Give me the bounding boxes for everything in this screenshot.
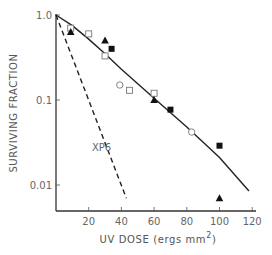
x-tick-label: 100 <box>210 216 229 227</box>
filled-square-point <box>109 46 115 52</box>
filled-square-point <box>167 107 173 113</box>
open-square-point <box>102 53 108 59</box>
x-axis-title-main: UV DOSE (ergs mm <box>100 234 207 245</box>
x-tick-label: 120 <box>243 216 262 227</box>
y-tick-label: 0.1 <box>36 95 52 106</box>
open-circle-point <box>189 129 195 135</box>
survival-chart: 20406080100120 1.00.10.01 XP6 SURVIVING … <box>0 0 272 255</box>
filled-triangle-point <box>150 96 158 103</box>
x-tick-label: 60 <box>148 216 161 227</box>
open-square-point <box>86 31 92 37</box>
xp6-dashed-curve <box>56 15 126 198</box>
y-tick-label: 0.01 <box>30 180 52 191</box>
xp6-curve-label: XP6 <box>92 142 111 153</box>
open-square-point <box>151 90 157 96</box>
x-axis-title-close: ) <box>212 234 217 245</box>
x-tick-label: 40 <box>115 216 128 227</box>
curves <box>56 15 249 198</box>
filled-triangle-point <box>216 194 224 201</box>
open-circle-point <box>117 82 123 88</box>
data-points <box>67 25 223 201</box>
y-tick-label: 1.0 <box>36 10 52 21</box>
x-tick-label: 80 <box>180 216 193 227</box>
axes <box>56 14 256 211</box>
x-ticks: 20406080100120 <box>82 207 261 227</box>
filled-triangle-point <box>101 37 109 44</box>
y-axis-title: SURVIVING FRACTION <box>8 53 19 172</box>
x-axis-title: UV DOSE (ergs mm2) <box>100 231 217 245</box>
open-square-point <box>127 87 133 93</box>
x-tick-label: 20 <box>82 216 95 227</box>
filled-square-point <box>217 143 223 149</box>
